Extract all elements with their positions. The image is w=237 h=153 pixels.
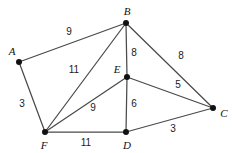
edge-weight-ec: 5 — [175, 80, 181, 90]
vertex-label-e: E — [114, 64, 121, 75]
edge-weight-ab: 9 — [66, 27, 72, 37]
vertex-label-b: B — [124, 6, 131, 17]
vertex-label-d: D — [123, 140, 131, 151]
edge-weight-bc: 8 — [178, 51, 184, 61]
edge-weight-cd: 3 — [170, 124, 176, 134]
graph-diagram: ABCDEF931188965113 — [0, 0, 237, 153]
edge-weight-bf: 11 — [69, 65, 79, 75]
edge-weight-af: 3 — [19, 99, 25, 109]
edge-weight-ef: 9 — [90, 103, 96, 113]
vertex-label-c: C — [220, 108, 227, 119]
vertex-label-f: F — [41, 140, 48, 151]
vertex-label-a: A — [9, 46, 16, 57]
edge-weight-fd: 11 — [81, 138, 91, 148]
labels-layer: ABCDEF931188965113 — [0, 0, 237, 153]
edge-weight-ed: 6 — [131, 99, 137, 109]
edge-weight-be: 8 — [131, 48, 137, 58]
